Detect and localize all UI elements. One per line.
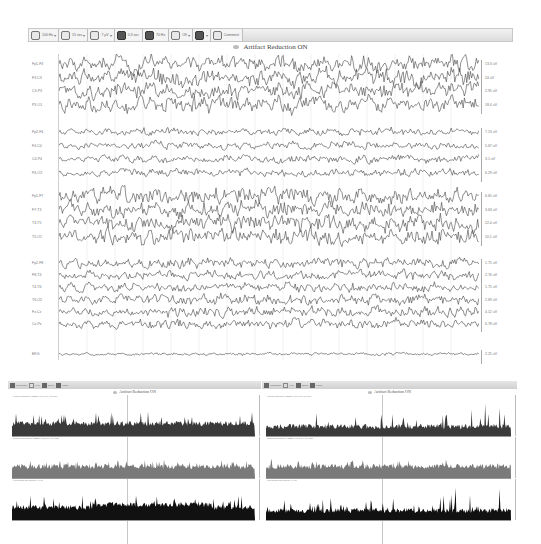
trend-scale-axis <box>259 437 260 478</box>
trend-toolbar: Timescale1 hrZoomPanel <box>262 381 517 389</box>
trend-histogram <box>12 395 255 437</box>
scale-bar <box>481 192 482 246</box>
eeg-trace-fz-cz <box>59 305 479 318</box>
artifact-reduction-status[interactable]: Artifact Reduction ON <box>28 43 513 53</box>
amplitude-label: 6.29 uV <box>485 171 497 175</box>
toolbar-control-label: Off <box>182 33 187 37</box>
range-icon[interactable] <box>283 383 288 388</box>
zoom-icon[interactable] <box>42 383 47 388</box>
chevron-down-icon[interactable]: ▾ <box>188 33 190 38</box>
channel-label[interactable]: F8-T4 <box>32 273 41 277</box>
channel-label[interactable]: P3-O1 <box>32 103 42 107</box>
toolbar-control-7[interactable]: Comment <box>211 29 243 41</box>
channel-label[interactable]: Fz-Cz <box>32 310 41 314</box>
channel-label[interactable]: Fp2-F4 <box>32 130 43 134</box>
channel-label[interactable]: Fp2-F8 <box>32 261 43 265</box>
sensitivity-icon <box>90 31 99 40</box>
trend-histogram <box>266 395 511 437</box>
toolbar-control-3[interactable]: 0.3 sec <box>115 29 143 41</box>
trend-panel[interactable]: Left hemisphere aEEG (Fp1-T3, C3-O1) <box>12 395 255 437</box>
trend-scale-axis <box>515 437 516 478</box>
chevron-down-icon[interactable]: ▾ <box>83 33 85 38</box>
zoom-icon[interactable] <box>296 383 301 388</box>
eeg-trace-fp2-f4 <box>59 127 479 136</box>
trend-toolbar-label: Zoom <box>302 384 308 387</box>
toolbar-control-2[interactable]: 7 µV▾ <box>88 29 114 41</box>
eeg-trace-area[interactable] <box>58 54 478 360</box>
channel-label[interactable]: T5-O1 <box>32 235 42 239</box>
channel-label[interactable]: C4-P4 <box>32 157 42 161</box>
channel-label[interactable]: T6-O2 <box>32 298 42 302</box>
trend-panel[interactable]: Right hemisphere aEEG (Fp2-T4, C4-O2) <box>266 437 511 479</box>
channel-label[interactable]: P4-O2 <box>32 171 42 175</box>
trend-window-left: Timescale1 hrZoomPanelArtifact Reduction… <box>8 381 261 544</box>
channel-label[interactable]: F7-T3 <box>32 208 41 212</box>
eeg-review-window: 100 Hz▾15 sec▾7 µV▾0.3 sec70 HzOff▾▾Comm… <box>28 28 513 363</box>
toolbar-control-5[interactable]: Off▾ <box>169 29 193 41</box>
channel-label[interactable]: C3-P3 <box>32 89 42 93</box>
panel-icon[interactable] <box>56 383 61 388</box>
clock-icon[interactable] <box>264 383 269 388</box>
toolbar-control-label: 70 Hz <box>156 33 165 37</box>
eeg-traces <box>59 54 479 360</box>
trend-panel[interactable]: Left-Right asymmetry (L-R) <box>266 479 511 521</box>
eeg-trace-cz-pz <box>59 317 479 329</box>
amplitude-label: 13.3 uV <box>485 62 497 66</box>
channel-label[interactable]: EKG <box>32 352 39 356</box>
channel-label[interactable]: F3-C3 <box>32 76 42 80</box>
channel-label[interactable]: T3-T5 <box>32 221 41 225</box>
trend-status[interactable]: Artifact Reduction ON <box>262 389 517 394</box>
channel-label[interactable]: T4-T6 <box>32 285 41 289</box>
montage-icon <box>171 31 180 40</box>
eeg-toolbar: 100 Hz▾15 sec▾7 µV▾0.3 sec70 HzOff▾▾Comm… <box>28 28 513 42</box>
person-icon <box>195 31 204 40</box>
toolbar-control-label: 15 sec <box>72 33 82 37</box>
trend-toolbar-label: 1 hr <box>35 384 39 387</box>
trend-histogram <box>266 437 511 479</box>
channel-label[interactable]: Fp1-F7 <box>32 194 43 198</box>
toolbar-control-label: 0.3 sec <box>128 33 139 37</box>
clock-icon[interactable] <box>10 383 15 388</box>
channel-label[interactable]: F4-C4 <box>32 144 42 148</box>
trend-panel[interactable]: Right hemisphere aEEG (Fp2-T4, C4-O2) <box>12 437 255 479</box>
channel-label[interactable]: Fp1-F3 <box>32 62 43 66</box>
amplitude-label: 18.4 uV <box>485 103 497 107</box>
trend-histogram <box>12 437 255 479</box>
chevron-down-icon[interactable]: ▾ <box>110 33 112 38</box>
amplitude-label: 1.75 uV <box>485 285 497 289</box>
eeg-trace-f4-c4 <box>59 140 479 150</box>
amplitude-label: 24 uV <box>485 76 494 80</box>
eeg-trace-t5-o1 <box>59 227 479 247</box>
amplitude-label: 3.1 uV <box>485 157 495 161</box>
trend-status[interactable]: Artifact Reduction ON <box>8 389 261 394</box>
eeg-trace-t3-t5 <box>59 213 479 233</box>
trend-histogram <box>266 479 511 521</box>
trend-toolbar-label: Panel <box>316 384 322 387</box>
amplitude-label: 5.67 uV <box>485 144 497 148</box>
eeg-trace-p3-o1 <box>59 94 479 116</box>
scale-bar <box>481 128 482 182</box>
eeg-trace-c4-p4 <box>59 154 479 164</box>
toolbar-control-6[interactable]: ▾ <box>193 29 211 41</box>
comment-icon <box>213 31 222 40</box>
toolbar-control-0[interactable]: 100 Hz▾ <box>29 29 59 41</box>
amplitude-label: 2.95 uV <box>485 89 497 93</box>
amplitude-label: 2.69 uV <box>485 298 497 302</box>
panel-icon[interactable] <box>310 383 315 388</box>
eeg-trace-t6-o2 <box>59 293 479 306</box>
range-icon[interactable] <box>29 383 34 388</box>
trend-panel[interactable]: Left-Right asymmetry (L-R) <box>12 479 255 521</box>
eeg-trace-f8-t4 <box>59 269 479 281</box>
chevron-down-icon[interactable]: ▾ <box>206 33 208 38</box>
trend-scale-axis <box>515 395 516 436</box>
timebase-icon <box>117 31 126 40</box>
channel-label[interactable]: Cz-Pz <box>32 322 42 326</box>
toolbar-control-4[interactable]: 70 Hz <box>143 29 169 41</box>
chevron-down-icon[interactable]: ▾ <box>54 33 56 38</box>
toolbar-control-1[interactable]: 15 sec▾ <box>59 29 88 41</box>
eeg-trace-f7-t3 <box>59 199 479 219</box>
status-indicator-icon <box>233 45 239 49</box>
trend-panel[interactable]: Left hemisphere aEEG (Fp1-T3, C3-O1) <box>266 395 511 437</box>
amplitude-label: 22.4 uV <box>485 221 497 225</box>
amplitude-label: 6.78 uV <box>485 322 497 326</box>
